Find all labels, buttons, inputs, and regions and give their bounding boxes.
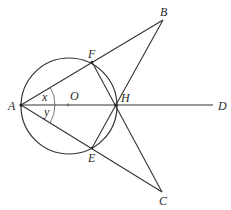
label-c: C: [159, 194, 168, 208]
label-o: O: [70, 89, 79, 103]
angle-arc-x: [50, 87, 55, 105]
point-a: [19, 103, 22, 106]
label-h: H: [120, 91, 131, 105]
label-a: A: [7, 99, 16, 113]
label-angle-x: x: [41, 90, 48, 104]
label-angle-y: y: [43, 105, 50, 119]
label-e: E: [87, 151, 96, 165]
angle-arc-y: [50, 105, 55, 123]
label-f: F: [87, 47, 96, 61]
point-f: [91, 61, 94, 64]
point-o: [67, 104, 70, 107]
circle-o: [21, 58, 117, 154]
geometry-diagram: A B C D E F H O x y: [0, 0, 231, 210]
label-b: B: [160, 5, 168, 19]
point-e: [91, 147, 94, 150]
label-d: D: [217, 99, 227, 113]
point-h: [114, 103, 117, 106]
segment-ch-f: [92, 62, 162, 192]
